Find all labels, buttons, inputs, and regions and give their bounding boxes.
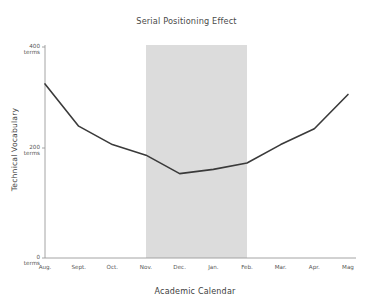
x-tick-label-2: Oct. bbox=[95, 264, 129, 270]
x-tick-label-4: Dec. bbox=[163, 264, 197, 270]
y-tick-label-400-unit: terms bbox=[14, 49, 40, 55]
x-tick-label-6: Feb. bbox=[230, 264, 264, 270]
highlight-band bbox=[146, 45, 247, 258]
x-tick-label-5: Jan. bbox=[196, 264, 230, 270]
x-tick-label-7: Mar. bbox=[264, 264, 298, 270]
x-axis-title: Academic Calendar bbox=[40, 287, 350, 296]
x-tick-label-1: Sept. bbox=[62, 264, 96, 270]
chart-figure: Serial Positioning Effect 400 terms 200 … bbox=[0, 0, 373, 308]
x-tick-label-8: Apr. bbox=[297, 264, 331, 270]
x-tick-label-3: Nov. bbox=[129, 264, 163, 270]
x-tick-label-0: Aug. bbox=[28, 264, 62, 270]
plot-area bbox=[0, 0, 373, 308]
y-tick-label-400: 400 terms bbox=[14, 43, 40, 56]
x-tick-label-9: Mag bbox=[331, 264, 365, 270]
y-axis-title: Technical Vocabulary bbox=[10, 90, 19, 210]
